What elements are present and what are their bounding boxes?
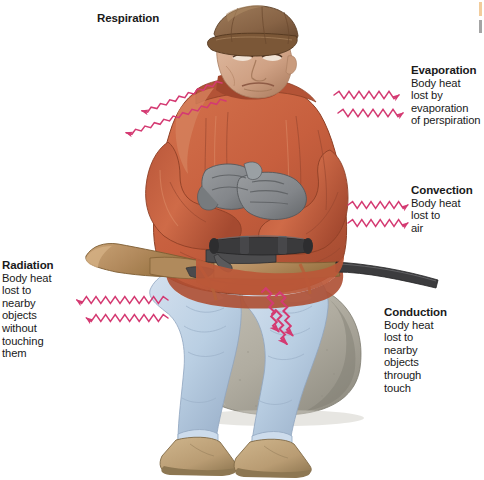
radiation-line-6: touching xyxy=(2,335,68,348)
page-edge-artifact xyxy=(476,0,484,34)
respiration-heading: Respiration xyxy=(97,12,159,25)
edge-mark-dark xyxy=(479,20,482,33)
convection-line-2: lost to xyxy=(411,209,483,222)
evaporation-line-4: of perspiration xyxy=(411,114,484,127)
figure-canvas: Respiration Evaporation Body heat lost b… xyxy=(0,0,484,480)
conduction-line-1: Body heat xyxy=(384,319,480,332)
conduction-arrows xyxy=(262,288,293,344)
radiation-line-3: nearby xyxy=(2,297,68,310)
conduction-line-6: touch xyxy=(384,382,480,395)
callout-conduction: Conduction Body heat lost to nearby obje… xyxy=(384,306,480,394)
radiation-line-2: lost to xyxy=(2,284,68,297)
conduction-line-3: nearby xyxy=(384,344,480,357)
convection-line-3: air xyxy=(411,222,483,235)
evaporation-line-2: lost by xyxy=(411,89,484,102)
conduction-line-4: objects xyxy=(384,356,480,369)
radiation-line-7: them xyxy=(2,347,68,360)
radiation-line-4: objects xyxy=(2,309,68,322)
convection-heading: Convection xyxy=(411,184,483,197)
radiation-heading: Radiation xyxy=(2,259,68,272)
evaporation-line-3: evaporation xyxy=(411,102,484,115)
respiration-arrows xyxy=(123,80,228,135)
callout-respiration: Respiration xyxy=(97,12,159,25)
conduction-heading: Conduction xyxy=(384,306,480,319)
conduction-line-2: lost to xyxy=(384,331,480,344)
radiation-line-1: Body heat xyxy=(2,272,68,285)
convection-line-1: Body heat xyxy=(411,197,483,210)
edge-mark-orange xyxy=(479,2,482,16)
convection-arrows xyxy=(348,202,408,227)
conduction-line-5: through xyxy=(384,369,480,382)
radiation-arrows xyxy=(77,297,168,322)
callout-radiation: Radiation Body heat lost to nearby objec… xyxy=(2,259,68,360)
evaporation-arrows xyxy=(334,91,403,116)
evaporation-line-1: Body heat xyxy=(411,77,484,90)
callout-convection: Convection Body heat lost to air xyxy=(411,184,483,234)
evaporation-heading: Evaporation xyxy=(411,64,484,77)
callout-evaporation: Evaporation Body heat lost by evaporatio… xyxy=(411,64,484,127)
radiation-line-5: without xyxy=(2,322,68,335)
